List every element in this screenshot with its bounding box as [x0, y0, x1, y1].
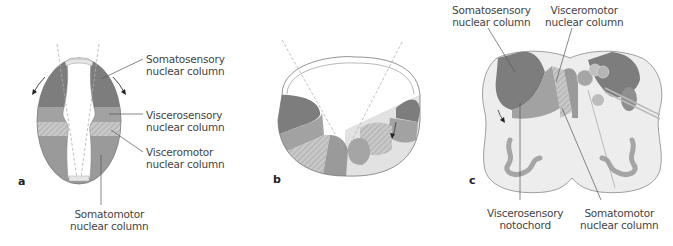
arrow-left-icon: [32, 89, 37, 95]
label-a-viscerosensory: Viscerosensory nuclear column: [146, 109, 224, 133]
label-a-visceromotor: Visceromotor nuclear column: [146, 146, 224, 170]
panel-c-spinal-cord: [483, 28, 662, 200]
panel-letter-b: b: [273, 173, 281, 186]
arrow-right-icon: [121, 89, 126, 95]
label-c-visceromotor: Visceromotor nuclear column: [545, 4, 623, 28]
label-c-viscerosensory: Viscerosensory notochord: [487, 207, 563, 231]
label-c-somatosensory: Somatosensory nuclear column: [452, 4, 531, 28]
label-c-somatomotor: Somatomotor nuclear column: [580, 207, 658, 231]
label-a-somatomotor: Somatomotor nuclear column: [70, 208, 148, 232]
panel-letter-c: c: [469, 174, 476, 187]
panel-a-neural-tube: [30, 44, 143, 205]
label-a-somatosensory: Somatosensory nuclear column: [146, 53, 225, 77]
panel-letter-a: a: [18, 175, 25, 188]
panel-b-neural-tube: [270, 40, 430, 190]
